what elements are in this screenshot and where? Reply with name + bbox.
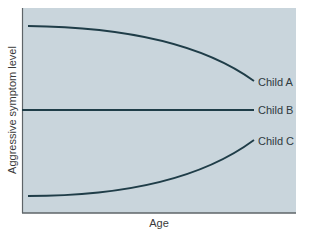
series-label-child-b: Child B: [258, 104, 293, 116]
line-chart: Child A Child B Child C Aggressive sympt…: [0, 0, 310, 234]
y-axis-label: Aggressive symptom level: [6, 46, 18, 174]
series-label-child-c: Child C: [258, 135, 294, 147]
x-axis-label: Age: [149, 217, 169, 229]
series-label-child-a: Child A: [258, 76, 294, 88]
